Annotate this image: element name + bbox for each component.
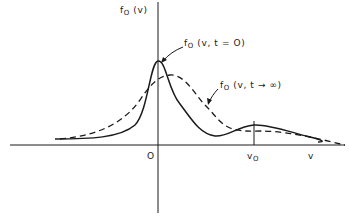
x-axis-label: v	[308, 151, 314, 161]
v0-label: vO	[247, 151, 259, 161]
y-axis-label: fO (v)	[120, 5, 148, 15]
curve-asymptotic-arg: (v, t → ∞)	[230, 80, 282, 90]
label-initial-curve: fO (v, t = O)	[184, 38, 245, 48]
y-label-arg: (v)	[130, 5, 148, 15]
distribution-function-diagram	[0, 0, 350, 219]
pointer-initial	[163, 47, 183, 61]
curve-initial-arg: (v, t = O)	[194, 38, 245, 48]
arrowhead-asymptotic	[207, 98, 212, 105]
label-asymptotic-curve: fO (v, t → ∞)	[220, 80, 282, 90]
y-label-sub: O	[124, 9, 130, 17]
curve-asymptotic-sub: O	[224, 84, 230, 92]
curve-initial-sub: O	[188, 42, 194, 50]
v0-label-sub: O	[253, 155, 259, 163]
curve-initial	[55, 61, 322, 142]
origin-label: O	[147, 151, 155, 161]
